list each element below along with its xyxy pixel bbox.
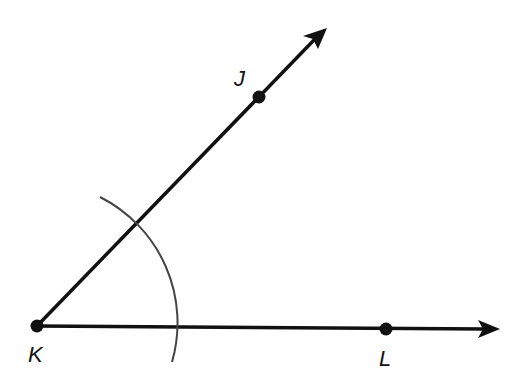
angle-diagram bbox=[0, 0, 525, 392]
label-l: L bbox=[379, 348, 391, 370]
point-j bbox=[253, 91, 266, 104]
label-k: K bbox=[28, 344, 43, 366]
label-j: J bbox=[234, 68, 245, 90]
ray-kj bbox=[37, 40, 314, 326]
point-k bbox=[31, 320, 44, 333]
point-l bbox=[380, 323, 393, 336]
ray-kl bbox=[37, 326, 486, 329]
